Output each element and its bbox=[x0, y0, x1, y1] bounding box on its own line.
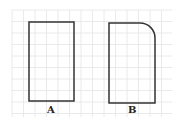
shape-b-label: B bbox=[128, 104, 136, 115]
shape-a-rectangle bbox=[29, 22, 74, 101]
figure-canvas bbox=[0, 0, 182, 126]
shape-a-label: A bbox=[47, 104, 55, 115]
